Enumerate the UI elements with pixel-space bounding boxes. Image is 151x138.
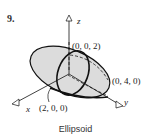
y-arrow-icon xyxy=(116,101,123,108)
ellipsoid-diagram xyxy=(0,0,151,138)
point-y-intercept: (0, 4, 0) xyxy=(112,77,141,86)
point-z-intercept: (0, 0, 2) xyxy=(72,42,101,51)
figure-caption: Ellipsoid xyxy=(0,124,151,134)
z-arrow-icon xyxy=(66,15,72,21)
y-axis-label: y xyxy=(124,98,128,107)
x-axis-label: x xyxy=(26,105,30,114)
x-arrow-icon xyxy=(12,99,19,106)
z-axis-label: z xyxy=(77,17,81,26)
point-x-intercept: (2, 0, 0) xyxy=(39,104,68,113)
